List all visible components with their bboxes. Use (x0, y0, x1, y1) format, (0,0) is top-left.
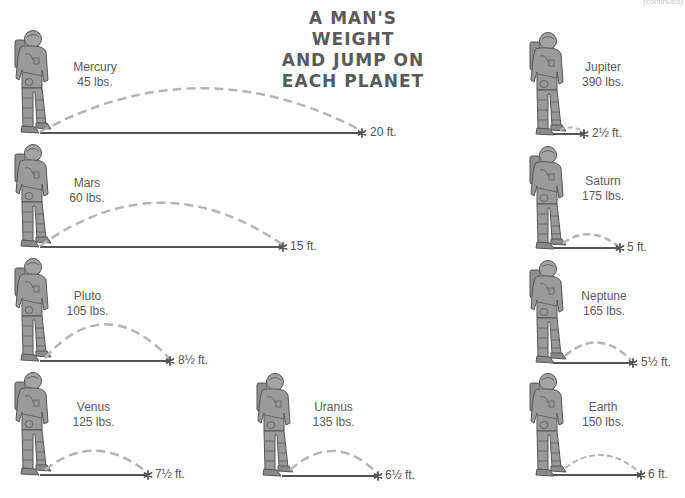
planet-name: Earth (578, 400, 628, 415)
planet-weight: 150 lbs. (578, 415, 628, 430)
planet-label: Earth 150 lbs. (578, 400, 628, 430)
jump-arc (565, 455, 639, 472)
jump-distance: 6 ft. (648, 467, 668, 481)
astronaut-icon (530, 374, 566, 477)
